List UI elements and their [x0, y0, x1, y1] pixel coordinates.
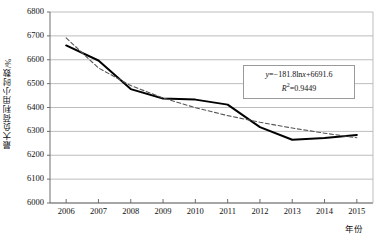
r-value: =0.9449 [290, 84, 317, 93]
chart-container: 最大负荷利用小时数/% 年份 6000610062006300640065006… [0, 0, 392, 242]
equation-tail: +6691.6 [306, 70, 333, 79]
equation-text: y=−181.8lnx+6691.6 [246, 69, 352, 80]
plot-area [0, 0, 392, 242]
equation-body: =−181.8ln [269, 70, 302, 79]
r-squared-text: R2=0.9449 [246, 80, 352, 94]
trendline-equation-box: y=−181.8lnx+6691.6 R2=0.9449 [243, 65, 355, 99]
